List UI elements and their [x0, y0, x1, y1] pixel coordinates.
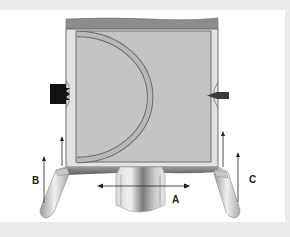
label-a: A	[172, 195, 179, 205]
right-leg	[214, 167, 240, 218]
diagram-canvas: A B C	[0, 0, 290, 237]
tank-body	[66, 29, 218, 167]
label-b: B	[32, 176, 39, 186]
outlet-nozzle	[116, 167, 165, 212]
tank-diagram	[0, 0, 290, 237]
top-lid	[66, 18, 218, 29]
label-c: C	[249, 175, 256, 185]
